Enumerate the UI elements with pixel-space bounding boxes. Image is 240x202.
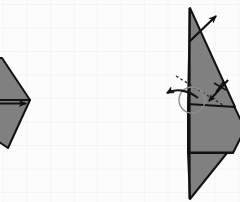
origami-diagram-svg xyxy=(0,0,240,202)
right-lower-body xyxy=(188,103,240,153)
diagram-canvas xyxy=(0,0,240,202)
